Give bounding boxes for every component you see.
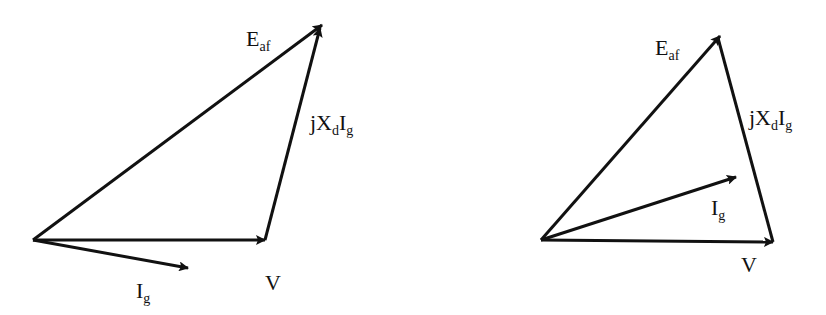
- label-i-g: Ig: [136, 278, 150, 306]
- vector-e-af: [541, 36, 720, 240]
- label-v: V: [265, 270, 281, 295]
- label-e-af: Eaf: [246, 26, 271, 54]
- label-v: V: [741, 252, 757, 277]
- label-jxd-ig: jXdIg: [309, 110, 353, 138]
- label-i-g: Ig: [711, 195, 725, 223]
- label-jxd-ig: jXdIg: [748, 105, 792, 133]
- vector-e-af: [33, 25, 322, 240]
- phasor-diagram-leading: Eaf jXdIg Ig V: [541, 35, 792, 277]
- vector-jxd-ig: [718, 38, 773, 242]
- phasor-diagrams: Eaf jXdIg V Ig Eaf jXdIg Ig V: [0, 0, 826, 315]
- phasor-diagram-lagging: Eaf jXdIg V Ig: [33, 25, 353, 306]
- vector-v: [541, 240, 773, 242]
- vector-i-g: [33, 240, 188, 268]
- label-e-af: Eaf: [655, 35, 680, 63]
